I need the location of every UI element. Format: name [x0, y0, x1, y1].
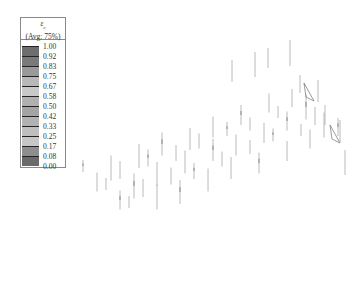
support-glyph	[330, 125, 340, 143]
slab-model-view	[0, 0, 361, 282]
support-glyph	[304, 83, 314, 101]
